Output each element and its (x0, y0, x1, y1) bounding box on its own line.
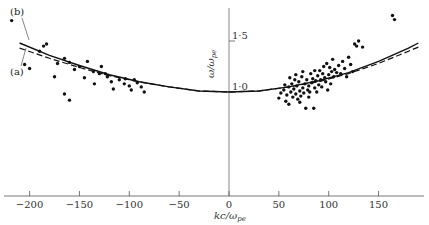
data-point (124, 77, 127, 80)
data-point (337, 64, 340, 67)
x-tick-label: −50 (169, 199, 190, 210)
x-axis-title: kc/ωpe (214, 210, 246, 223)
data-point (10, 19, 13, 22)
data-point (123, 82, 126, 85)
data-point (279, 91, 282, 94)
data-point (319, 78, 322, 81)
data-point (347, 56, 350, 59)
data-point (298, 89, 301, 92)
data-point (361, 45, 364, 48)
data-point (98, 72, 101, 75)
data-point (290, 82, 293, 85)
data-point (326, 88, 329, 91)
chart: −200−150−100−500501001501·01·5 (b) (a) k… (0, 0, 429, 225)
data-point (282, 88, 285, 91)
data-point (130, 88, 133, 91)
curve-b-leader (22, 18, 29, 40)
x-tick-label: 0 (226, 199, 232, 210)
data-point (93, 82, 96, 85)
data-point (287, 85, 290, 88)
data-point (133, 78, 136, 81)
data-point (315, 90, 318, 93)
data-point (316, 74, 319, 77)
data-point (355, 44, 358, 47)
data-point (297, 80, 300, 83)
data-point (302, 91, 305, 94)
data-point (110, 80, 113, 83)
data-point (313, 86, 316, 89)
data-point (314, 79, 317, 82)
x-tick-label: 50 (272, 199, 285, 210)
data-point (328, 66, 331, 69)
data-point (288, 76, 291, 79)
x-tick-label: −200 (16, 199, 43, 210)
data-point (313, 69, 316, 72)
curve-b-label: (b) (10, 6, 24, 17)
data-point (112, 87, 115, 90)
data-point (291, 95, 294, 98)
data-point (68, 61, 71, 64)
data-point (320, 85, 323, 88)
y-tick-label: 1·0 (232, 81, 248, 92)
curve-a-label: (a) (10, 66, 24, 77)
svg-text:ω/ωpe: ω/ωpe (205, 50, 218, 78)
data-point (301, 86, 304, 89)
data-point (78, 65, 81, 68)
data-point (296, 97, 299, 100)
data-point (294, 92, 297, 95)
data-point (295, 84, 298, 87)
data-point (53, 75, 56, 78)
x-tick-label: −100 (116, 199, 143, 210)
data-point (300, 75, 303, 78)
data-point (349, 63, 352, 66)
data-point (393, 18, 396, 21)
x-tick-label: 100 (319, 199, 338, 210)
data-point (335, 71, 338, 74)
data-point (38, 50, 41, 53)
data-point (351, 70, 354, 73)
data-point (330, 70, 333, 73)
data-point (332, 75, 335, 78)
data-point (277, 96, 280, 99)
data-point (293, 78, 296, 81)
data-point (305, 78, 308, 81)
data-point (63, 92, 66, 95)
data-point (307, 84, 310, 87)
data-point (86, 60, 89, 63)
data-point (307, 95, 310, 98)
data-point (331, 58, 334, 61)
data-point (308, 90, 311, 93)
data-point (287, 103, 290, 106)
data-point (318, 69, 321, 72)
data-points (10, 14, 396, 110)
data-point (100, 65, 103, 68)
data-point (143, 90, 146, 93)
data-point (28, 67, 31, 70)
data-point (289, 90, 292, 93)
y-tick-label: 1·5 (232, 30, 248, 41)
data-point (322, 65, 325, 68)
data-point (311, 77, 314, 80)
data-point (323, 76, 326, 79)
svg-text:kc/ωpe: kc/ωpe (214, 210, 246, 223)
axes (4, 8, 424, 196)
data-point (303, 82, 306, 85)
data-point (56, 62, 59, 65)
data-point (327, 73, 330, 76)
data-point (312, 107, 315, 110)
data-point (324, 80, 327, 83)
tick-labels: −200−150−100−500501001501·01·5 (16, 30, 388, 210)
x-tick-label: 150 (369, 199, 388, 210)
data-point (310, 81, 313, 84)
data-point (92, 70, 95, 73)
x-tick-label: −150 (66, 199, 93, 210)
data-point (283, 83, 286, 86)
data-point (298, 101, 301, 104)
data-point (118, 78, 121, 81)
data-point (104, 72, 107, 75)
data-point (45, 42, 48, 45)
data-point (83, 76, 86, 79)
data-point (299, 94, 302, 97)
data-point (294, 73, 297, 76)
data-point (339, 72, 342, 75)
